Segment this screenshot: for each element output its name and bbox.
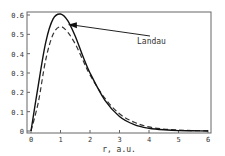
x-tick-label: 5 <box>176 136 180 144</box>
y-tick-label: 0.2 <box>11 89 24 97</box>
y-tick-label: 0 <box>20 128 24 136</box>
y-tick-label: 0.5 <box>11 31 24 39</box>
x-tick-label: 3 <box>117 136 121 144</box>
y-tick-label: 0.1 <box>11 109 24 117</box>
annotation-arrow <box>68 22 150 36</box>
dashed-curve <box>31 27 208 131</box>
x-tick-label: 6 <box>206 136 210 144</box>
x-axis-label: r, a.u. <box>102 145 136 154</box>
y-tick-label: 0.3 <box>11 70 24 78</box>
y-tick-label: 0.4 <box>11 51 24 59</box>
plot-frame <box>27 12 211 133</box>
chart: 00.10.20.30.40.50.6 0123456 Landau r, a.… <box>0 0 225 156</box>
x-tick-label: 4 <box>147 136 151 144</box>
x-tick-label: 2 <box>88 136 92 144</box>
x-tick-label: 0 <box>29 136 33 144</box>
y-tick-label: 0.6 <box>11 12 24 20</box>
annotation-label: Landau <box>137 37 166 46</box>
x-tick-label: 1 <box>58 136 62 144</box>
x-axis-ticks: 0123456 <box>29 130 210 144</box>
